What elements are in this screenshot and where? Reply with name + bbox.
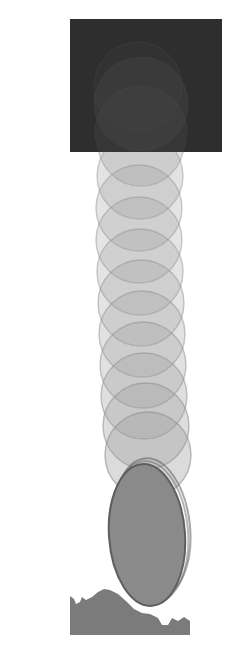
visualization-canvas bbox=[0, 0, 240, 657]
scene-svg bbox=[0, 0, 240, 657]
motion-trail-group bbox=[96, 100, 191, 498]
